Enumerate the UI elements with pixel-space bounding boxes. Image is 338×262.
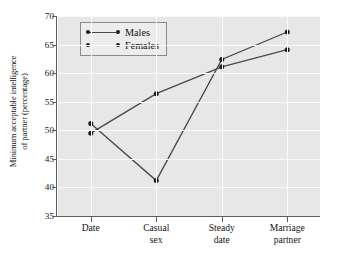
gridline-horizontal [58, 102, 320, 103]
x-tick-label: Casualsex [143, 222, 169, 247]
y-tick-mark [52, 187, 57, 188]
gridline-horizontal [58, 16, 320, 17]
x-tick-mark [287, 217, 288, 222]
x-tick-mark [91, 217, 92, 222]
gridline-horizontal [58, 187, 320, 188]
x-tick-label: Steadydate [209, 222, 235, 247]
gridline-vertical [156, 16, 157, 216]
legend-label-males: Males [125, 26, 150, 39]
gridline-horizontal [58, 159, 320, 160]
gridline-horizontal [58, 73, 320, 74]
gridline-horizontal [58, 45, 320, 46]
y-tick-mark [52, 216, 57, 217]
gridline-vertical [91, 16, 92, 216]
y-tick-mark [52, 16, 57, 17]
legend-item-males: Males [86, 26, 159, 39]
y-tick-mark [52, 45, 57, 46]
x-tick-mark [156, 217, 157, 222]
y-tick-mark [52, 73, 57, 74]
chart-figure: Minimum acceptable intelligence of partn… [0, 0, 338, 262]
y-tick-mark [52, 102, 57, 103]
y-axis-title-line-1: Minimum acceptable intelligence [8, 55, 19, 167]
x-tick-label: Marriagepartner [270, 222, 305, 247]
x-tick-mark [222, 217, 223, 222]
gridline-vertical [287, 16, 288, 216]
x-axis-spine [56, 216, 320, 217]
chart-legend: Males Females [80, 22, 167, 56]
x-tick-label: Date [82, 222, 100, 234]
plot-area: Males Females [58, 16, 320, 216]
y-tick-mark [52, 159, 57, 160]
gridline-vertical [222, 16, 223, 216]
x-axis-tick-labels: DateCasualsexSteadydateMarriagepartner [58, 222, 320, 262]
y-axis-tick-labels: 3540455055606570 [34, 0, 56, 222]
gridline-horizontal [58, 130, 320, 131]
y-axis-title: Minimum acceptable intelligence of partn… [0, 0, 38, 222]
y-axis-title-line-2: of partner (percentage) [19, 55, 30, 167]
y-tick-mark [52, 130, 57, 131]
